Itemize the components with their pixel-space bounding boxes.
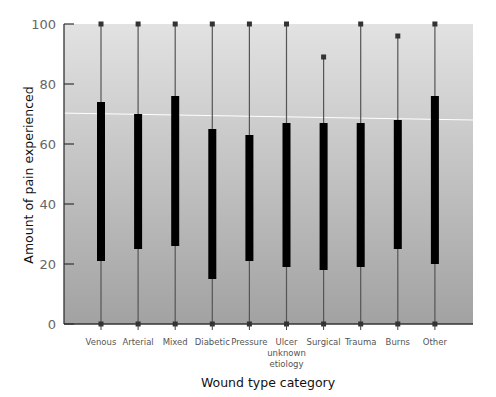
max-marker <box>210 22 215 27</box>
max-marker <box>99 22 104 27</box>
plot-area <box>64 24 473 324</box>
max-marker <box>321 55 326 60</box>
max-marker <box>284 22 289 27</box>
y-tick-label: 100 <box>31 17 56 32</box>
max-marker <box>136 22 141 27</box>
x-tick-label: Venous <box>86 337 117 347</box>
x-tick-label: Burns <box>386 337 411 347</box>
iqr-box <box>97 102 105 261</box>
boxplot-chart: VenousArterialMixedDiabeticPressureUlcer… <box>0 0 496 397</box>
iqr-box <box>208 129 216 279</box>
iqr-box <box>357 123 365 267</box>
max-marker <box>173 22 178 27</box>
iqr-box <box>394 120 402 249</box>
x-axis-title: Wound type category <box>201 375 336 390</box>
x-tick-label: Surgical <box>307 337 341 347</box>
max-marker <box>432 22 437 27</box>
max-marker <box>358 22 363 27</box>
x-tick-label: Pressure <box>231 337 267 347</box>
max-marker <box>395 34 400 39</box>
y-tick-label: 60 <box>39 137 56 152</box>
iqr-box <box>431 96 439 264</box>
iqr-box <box>171 96 179 246</box>
y-tick-label: 0 <box>48 317 56 332</box>
y-tick-label: 80 <box>39 77 56 92</box>
x-tick-label: Mixed <box>163 337 188 347</box>
x-tick-label: Arterial <box>122 337 153 347</box>
x-tick-label: Ulcerunknownetiology <box>267 337 306 369</box>
iqr-box <box>245 135 253 261</box>
x-tick-label: Diabetic <box>195 337 230 347</box>
x-tick-label: Trauma <box>344 337 377 347</box>
iqr-box <box>283 123 291 267</box>
iqr-box <box>134 114 142 249</box>
x-tick-label: Other <box>423 337 448 347</box>
iqr-box <box>320 123 328 270</box>
y-axis-title: Amount of pain experienced <box>21 86 36 263</box>
max-marker <box>247 22 252 27</box>
y-tick-label: 20 <box>39 257 56 272</box>
y-tick-label: 40 <box>39 197 56 212</box>
